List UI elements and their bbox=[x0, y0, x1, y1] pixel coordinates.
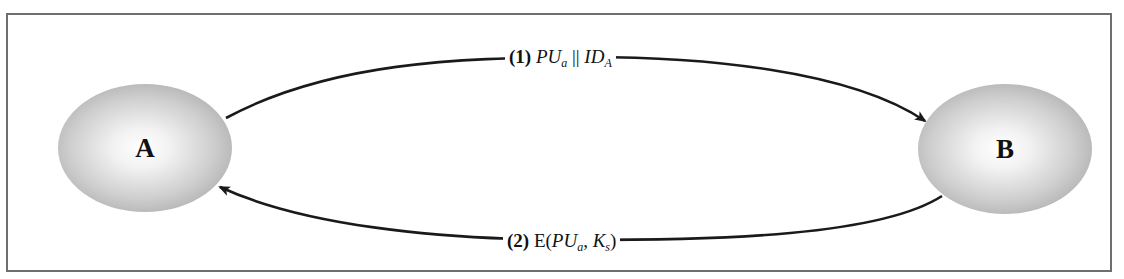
message-1-label: (1) PUa || IDA bbox=[505, 45, 616, 69]
message-1-id-sub: A bbox=[604, 56, 611, 70]
node-b: B bbox=[918, 84, 1092, 214]
message-1-step: (1) bbox=[509, 46, 531, 67]
node-a: A bbox=[58, 84, 232, 212]
message-2-sep: , bbox=[583, 230, 593, 251]
node-b-label: B bbox=[996, 134, 1014, 165]
message-1-concat: || bbox=[572, 46, 580, 67]
message-1-pu: PU bbox=[536, 46, 561, 67]
message-2-label: (2) E(PUa, Ks) bbox=[503, 229, 620, 253]
node-a-label: A bbox=[135, 133, 155, 164]
message-2-func: E( bbox=[534, 230, 552, 251]
message-2-pu: PU bbox=[552, 230, 577, 251]
message-1-id: ID bbox=[584, 46, 604, 67]
message-2-close: ) bbox=[610, 230, 616, 251]
message-2-k: K bbox=[593, 230, 606, 251]
message-2-step: (2) bbox=[507, 230, 529, 251]
message-1-pu-sub: a bbox=[561, 56, 567, 70]
